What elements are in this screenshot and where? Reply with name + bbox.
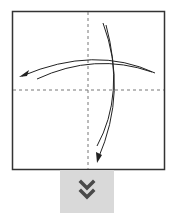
next-step-indicator [60,170,114,213]
double-chevron-down-icon [60,170,114,213]
